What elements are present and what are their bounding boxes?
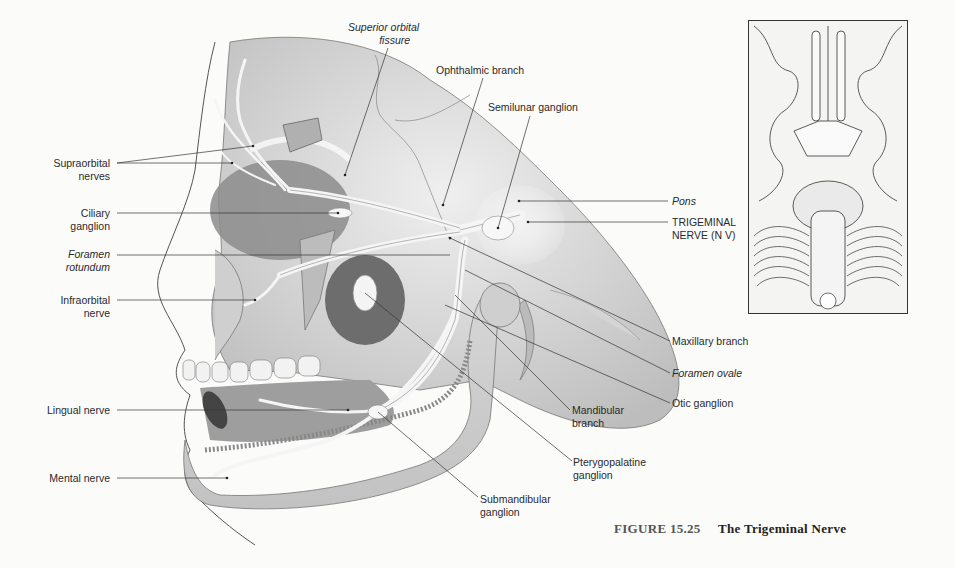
figure-caption: FIGURE 15.25 The Trigeminal Nerve (614, 521, 846, 537)
label-ophthalmic-branch: Ophthalmic branch (436, 64, 524, 77)
figure-canvas: Superior orbital fissure Ophthalmic bran… (0, 0, 955, 568)
label-mandibular-branch: Mandibular branch (572, 404, 624, 429)
label-maxillary-branch: Maxillary branch (672, 335, 748, 348)
label-ciliary-ganglion: Ciliary ganglion (30, 207, 110, 232)
brain-inset (748, 20, 908, 314)
figure-number: FIGURE 15.25 (614, 521, 701, 536)
label-foramen-ovale: Foramen ovale (672, 367, 742, 380)
label-pterygopalatine-ganglion: Pterygopalatine ganglion (573, 456, 646, 481)
label-pons: Pons (672, 195, 696, 208)
label-infraorbital-nerve: Infraorbital nerve (30, 294, 110, 319)
label-superior-orbital-fissure: Superior orbital fissure (348, 21, 419, 46)
label-lingual-nerve: Lingual nerve (20, 404, 110, 417)
brainstem-illustration (749, 21, 907, 313)
label-supraorbital-nerves: Supraorbital nerves (30, 157, 110, 182)
label-submandibular-ganglion: Submandibular ganglion (480, 493, 551, 518)
label-semilunar-ganglion: Semilunar ganglion (488, 101, 578, 114)
label-trigeminal-nerve: TRIGEMINAL NERVE (N V) (672, 216, 736, 241)
figure-title: The Trigeminal Nerve (718, 521, 846, 536)
label-mental-nerve: Mental nerve (20, 472, 110, 485)
label-foramen-rotundum: Foramen rotundum (30, 248, 110, 273)
label-otic-ganglion: Otic ganglion (672, 397, 733, 410)
